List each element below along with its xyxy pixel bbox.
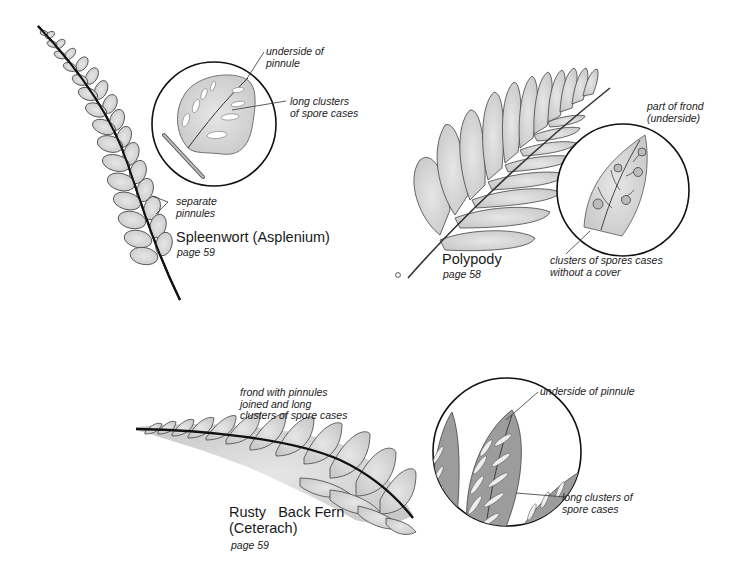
rustyback-title: Rusty Back Fern (Ceterach) (229, 504, 344, 536)
spleenwort-magnifier (152, 52, 286, 186)
rustyback-magnifier (428, 378, 600, 540)
spleenwort-title: Spleenwort (Asplenium) (176, 229, 330, 245)
spleenwort-page: page 59 (177, 246, 215, 258)
spleenwort-underside-label: underside of pinnule (266, 46, 324, 69)
polypody-title: Polypody (442, 251, 502, 267)
polypody-magnifier (557, 124, 689, 256)
rustyback-clusters-label: long clusters of spore cases (562, 492, 633, 515)
polypody-clusters-label: clusters of spores cases without a cover (550, 255, 663, 278)
rustyback-underside-label: underside of pinnule (540, 386, 635, 398)
spleenwort-pinnules-label: separate pinnules (176, 196, 217, 219)
polypody-page: page 58 (443, 268, 481, 280)
spleenwort-frond (38, 26, 180, 300)
spleenwort-clusters-label: long clusters of spore cases (290, 96, 358, 119)
rustyback-page: page 59 (231, 539, 269, 551)
polypody-frond-label: part of frond (underside) (647, 101, 704, 124)
rustyback-frond-label: frond with pinnules joined and long clus… (240, 387, 347, 422)
